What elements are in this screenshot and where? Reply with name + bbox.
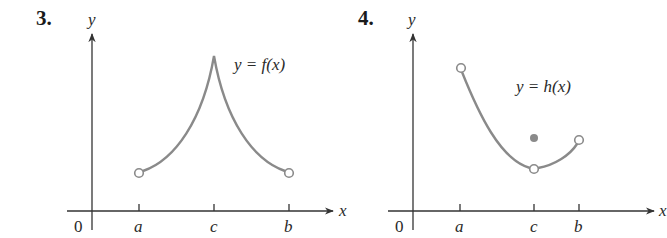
graph-3: 3. y x 0 a c b y = f(x) [36,6,347,236]
tick-label-b: b [284,217,293,236]
tick-label-b: b [574,217,583,236]
tick-label-a: a [455,217,464,236]
origin-label: 0 [74,217,83,236]
x-axis-label: x [338,201,347,220]
open-circle-a [135,169,144,178]
y-axis-label: y [86,10,96,29]
filled-point-c [530,134,538,142]
origin-label: 0 [395,217,404,236]
tick-label-c: c [210,217,218,236]
open-circle-a [457,64,466,73]
problem-number: 4. [358,6,374,30]
open-circle-b [575,136,584,145]
graph-4: 4. y x 0 a c b y = h(x) [358,6,667,236]
tick-label-a: a [134,217,143,236]
y-axis-label: y [406,10,416,29]
x-axis-label: x [658,201,667,220]
figure: 3. y x 0 a c b y = f(x) 4. y x 0 a c b [0,0,667,238]
problem-number: 3. [36,6,52,30]
tick-label-c: c [530,217,538,236]
open-circle-b [285,169,294,178]
equation-label: y = h(x) [514,77,571,96]
open-circle-c [530,165,539,174]
equation-label: y = f(x) [232,55,285,74]
